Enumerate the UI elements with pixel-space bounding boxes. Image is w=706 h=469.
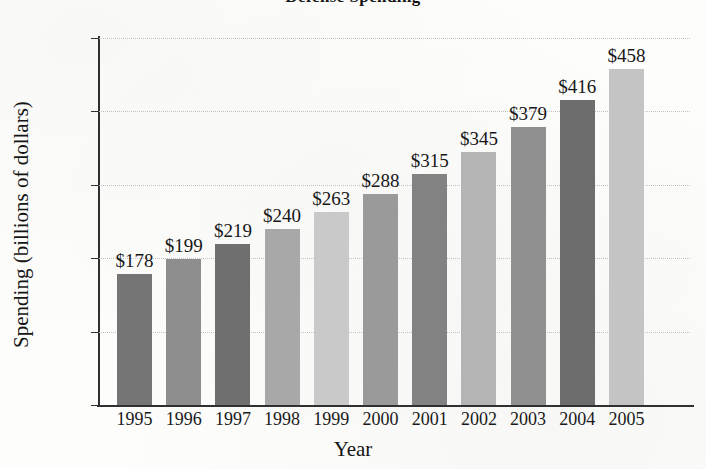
bar[interactable]: $263 [314,212,349,405]
bar[interactable]: $178 [117,274,152,405]
bar-value-label: $458 [608,46,646,65]
y-tick-mark [91,185,99,186]
bar[interactable]: $288 [363,194,398,405]
bar-fill [511,127,546,405]
gridline [98,38,690,39]
bar-value-label: $416 [558,77,596,96]
bar-value-label: $315 [411,151,449,170]
bar-value-label: $288 [362,171,400,190]
x-tick-label: 1997 [205,410,261,428]
y-tick-mark [91,332,99,333]
bar[interactable]: $416 [560,100,595,405]
bar[interactable]: $379 [511,127,546,405]
x-tick-label: 1996 [156,410,212,428]
x-tick-label: 2005 [599,410,655,428]
plot-area: 0100200300400$500 $178$199$219$240$263$2… [98,38,690,405]
x-axis-title: Year [0,437,706,462]
chart-title: Defense Spending [0,0,706,7]
bar-value-label: $379 [509,104,547,123]
x-tick-label: 1999 [303,410,359,428]
bar-value-label: $178 [116,251,154,270]
bar-chart-figure: Defense Spending 0100200300400$500 $178$… [0,0,706,469]
y-tick-mark [91,405,99,406]
x-axis-line [97,405,694,407]
bar-fill [461,152,496,405]
x-tick-label: 2002 [451,410,507,428]
bar[interactable]: $219 [215,244,250,405]
bar[interactable]: $240 [265,229,300,405]
x-tick-label: 2004 [549,410,605,428]
bar-fill [117,274,152,405]
bar-fill [215,244,250,405]
y-axis-title: Spending (billions of dollars) [9,70,34,380]
bar-fill [363,194,398,405]
gridline [98,111,690,112]
y-tick-mark [91,38,99,39]
bar-fill [166,259,201,405]
bar-value-label: $219 [214,221,252,240]
bar-value-label: $263 [312,189,350,208]
bar-value-label: $240 [263,206,301,225]
bar-value-label: $345 [460,129,498,148]
bar-fill [265,229,300,405]
bar[interactable]: $199 [166,259,201,405]
bar[interactable]: $315 [412,174,447,405]
bar-fill [609,69,644,405]
bar-fill [314,212,349,405]
bar[interactable]: $458 [609,69,644,405]
x-tick-label: 1998 [254,410,310,428]
bar-fill [560,100,595,405]
bar-value-label: $199 [165,236,203,255]
bar-fill [412,174,447,405]
y-tick-mark [91,111,99,112]
y-tick-mark [91,258,99,259]
x-tick-label: 1995 [107,410,163,428]
bar[interactable]: $345 [461,152,496,405]
x-tick-label: 2001 [402,410,458,428]
x-tick-label: 2000 [353,410,409,428]
x-tick-label: 2003 [500,410,556,428]
